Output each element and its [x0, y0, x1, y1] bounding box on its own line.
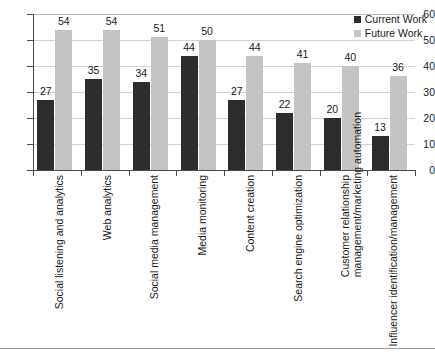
bar-value-label: 22 [270, 99, 299, 110]
bar-value-label: 34 [127, 68, 156, 79]
y-axis-tick-mark [27, 14, 33, 15]
category-label-line: Customer relationship [339, 175, 351, 277]
legend-item[interactable]: Current Work [354, 12, 427, 26]
bar-value-label: 40 [336, 52, 365, 63]
bar-future-work [294, 63, 311, 170]
y-axis-tick-mark [27, 118, 33, 119]
chart-legend: Current WorkFuture Work [354, 12, 427, 40]
category-label-line: Content creation [244, 175, 256, 252]
x-axis-category-label: Search engine optimization [293, 175, 304, 302]
x-axis-tick-mark [224, 170, 225, 176]
category-label-line: Search engine optimization [292, 175, 304, 302]
x-axis-tick-mark [81, 170, 82, 176]
y-axis-tick-label: 30 [411, 87, 435, 97]
bar-future-work [151, 37, 168, 170]
category-label-line: Media monitoring [196, 175, 208, 256]
bar-current-work [228, 100, 245, 170]
x-axis-category-label: Web analytics [102, 175, 113, 240]
bar-value-label: 41 [288, 49, 317, 60]
grouped-bar-chart: 6050403020100 Social listening and analy… [0, 0, 435, 362]
y-axis-tick-mark [27, 66, 33, 67]
category-label-line: Social listening and analytics [53, 175, 65, 309]
category-label-line: Influencer identification/management [387, 175, 399, 347]
bar-current-work [85, 79, 102, 170]
legend-label: Future Work [365, 26, 423, 40]
x-axis-tick-mark [272, 170, 273, 176]
legend-label: Current Work [365, 12, 427, 26]
bar-current-work [276, 113, 293, 170]
x-axis-tick-mark [415, 170, 416, 176]
bar-value-label: 51 [145, 23, 174, 34]
bar-value-label: 13 [366, 122, 395, 133]
bar-value-label: 36 [384, 62, 413, 73]
legend-swatch-icon [354, 30, 361, 37]
bar-value-label: 20 [318, 104, 347, 115]
bar-value-label: 27 [31, 86, 60, 97]
bar-future-work [55, 30, 72, 170]
bar-current-work [372, 136, 389, 170]
category-label-line: Web analytics [101, 175, 113, 240]
bar-future-work [199, 40, 216, 170]
x-axis-tick-mark [33, 170, 34, 176]
bar-future-work [103, 30, 120, 170]
x-axis-category-label: Influencer identification/management [388, 175, 399, 347]
y-axis-tick-mark [27, 144, 33, 145]
x-axis-tick-mark [176, 170, 177, 176]
gridline [33, 40, 415, 41]
x-axis-category-label: Media monitoring [197, 175, 208, 256]
x-axis-category-label: Social listening and analytics [54, 175, 65, 309]
x-axis-tick-mark [129, 170, 130, 176]
y-axis-tick-label: 20 [411, 113, 435, 123]
bar-current-work [324, 118, 341, 170]
bar-value-label: 35 [79, 65, 108, 76]
bar-future-work [246, 56, 263, 170]
legend-item[interactable]: Future Work [354, 26, 427, 40]
bar-value-label: 50 [193, 26, 222, 37]
x-axis-category-label: Content creation [245, 175, 256, 252]
bar-value-label: 54 [97, 16, 126, 27]
footer-divider [0, 348, 435, 349]
y-axis-tick-label: 10 [411, 139, 435, 149]
x-axis-category-label: Customer relationshipmanagement/marketin… [340, 175, 351, 277]
category-label-line: management/marketing automation [352, 112, 363, 277]
bar-current-work [133, 82, 150, 170]
bar-current-work [37, 100, 54, 170]
bar-value-label: 44 [175, 42, 204, 53]
bar-value-label: 44 [240, 42, 269, 53]
legend-swatch-icon [354, 16, 361, 23]
category-label-line: Social media management [148, 175, 160, 299]
y-axis-tick-label: 40 [411, 61, 435, 71]
bar-value-label: 54 [49, 16, 78, 27]
bar-current-work [181, 56, 198, 170]
x-axis-category-label: Social media management [149, 175, 160, 299]
y-axis-tick-mark [27, 40, 33, 41]
x-axis-tick-mark [320, 170, 321, 176]
x-axis-tick-mark [367, 170, 368, 176]
bar-value-label: 27 [222, 86, 251, 97]
